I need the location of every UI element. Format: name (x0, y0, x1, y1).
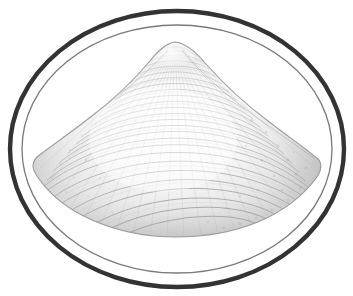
shell-illustration-svg (0, 0, 353, 296)
illustration-plate (0, 0, 353, 296)
central-highlight (89, 88, 237, 192)
